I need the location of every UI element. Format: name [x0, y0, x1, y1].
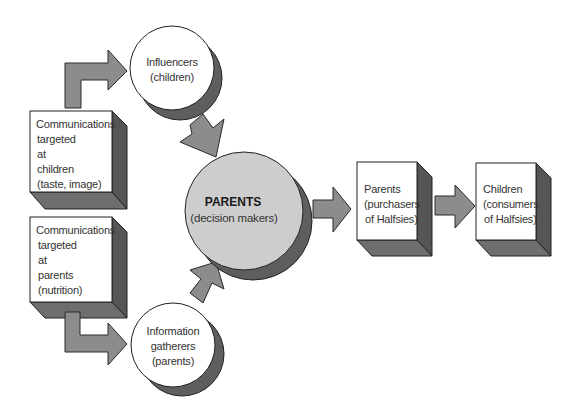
arrow-right-icon — [435, 185, 475, 228]
node-parents-purchasers: Parents (purchasers of Halfsies) — [357, 162, 432, 256]
node-label-line: parents — [38, 269, 74, 281]
node-label-line: (nutrition) — [38, 284, 82, 296]
edge-comm-parents-to-info-gatherers — [65, 312, 127, 365]
node-label-line: (decision makers) — [190, 212, 278, 224]
node-label-line: (children) — [150, 71, 194, 83]
edge-purchasers-to-consumers — [435, 185, 475, 228]
arrow-right-icon — [313, 187, 351, 232]
node-label-line: targeted — [38, 239, 77, 251]
node-comm-children: Communications targeted at children (tas… — [30, 111, 127, 209]
node-title: PARENTS — [205, 195, 261, 209]
node-label-line: (consumers — [483, 198, 539, 210]
node-label-line: of Halfsies) — [365, 213, 418, 225]
node-label-line: at — [38, 254, 47, 266]
arrow-down-right-icon — [180, 114, 224, 157]
node-label-line: children — [37, 163, 74, 175]
circle-face — [185, 152, 303, 270]
edge-influencers-to-parents — [180, 114, 224, 157]
node-info-gatherers: Information gatherers (parents) — [131, 303, 224, 396]
elbow-arrow-down-right-icon — [65, 312, 127, 365]
decision-flow-diagram: Communications targeted at children (tas… — [0, 0, 581, 417]
box-bottom-face — [30, 192, 127, 209]
node-label-line: Influencers — [146, 56, 198, 68]
node-label-line: of Halfsies) — [484, 213, 537, 225]
node-label-line: targeted — [37, 133, 76, 145]
node-label-line: Information — [147, 325, 200, 337]
node-label-line: Children — [483, 183, 522, 195]
node-label-line: Communications — [36, 118, 116, 130]
edge-comm-children-to-influencers — [65, 50, 127, 108]
node-influencers: Influencers (children) — [130, 26, 222, 120]
node-parents-decision-makers: PARENTS (decision makers) — [185, 152, 312, 280]
node-label-line: at — [37, 148, 46, 160]
circle-face — [130, 26, 214, 110]
node-label-line: gatherers — [151, 340, 196, 352]
node-children-consumers: Children (consumers of Halfsies) — [476, 163, 551, 256]
node-label-line: (taste, image) — [37, 178, 101, 190]
node-comm-parents: Communications targeted at parents (nutr… — [30, 217, 127, 318]
node-label-line: (purchasers — [364, 198, 421, 210]
edge-parents-to-purchasers — [313, 187, 351, 232]
node-label-line: (parents) — [152, 355, 194, 367]
elbow-arrow-up-right-icon — [65, 50, 127, 108]
node-label-line: Parents — [364, 183, 401, 195]
node-label-line: Communications — [36, 224, 116, 236]
